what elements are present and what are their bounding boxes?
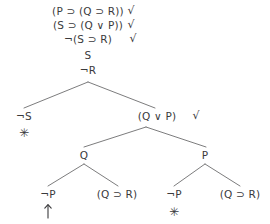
trunk-formula-3: ¬(S ⊃ R) (64, 34, 112, 45)
checkmark-q-or-p: √ (192, 110, 199, 121)
leaf-not-p-right: ¬P (166, 189, 182, 200)
trunk-formula-2: (S ⊃ (Q ∨ P)) (53, 20, 123, 31)
edge-p-right (205, 164, 240, 186)
edge-qorp-right (146, 127, 206, 147)
edge-q-right (84, 164, 118, 186)
checkmark-trunk-1: √ (127, 5, 134, 16)
trunk-formula-1: (P ⊃ (Q ⊃ R)) (52, 6, 124, 17)
edge-p-left (174, 164, 205, 186)
truth-tree-diagram: (P ⊃ (Q ⊃ R)) √ (S ⊃ (Q ∨ P)) √ ¬(S ⊃ R)… (0, 0, 270, 224)
edge-qorp-left (84, 127, 146, 147)
edge-root-right (88, 82, 155, 108)
branch-node-q: Q (80, 150, 88, 161)
leaf-q-imp-r-right: (Q ⊃ R) (220, 189, 261, 200)
leaf-not-p-left: ¬P (40, 189, 56, 200)
trunk-formula-5: ¬R (80, 65, 97, 76)
edge-root-left (24, 82, 88, 108)
checkmark-trunk-2: √ (127, 19, 134, 30)
closure-asterisk-not-s: ✳ (19, 127, 29, 139)
branch-node-q-or-p: (Q ∨ P) (138, 111, 177, 122)
branch-node-p: P (202, 150, 209, 161)
edge-q-left (48, 164, 84, 186)
trunk-formula-4: S (85, 50, 92, 61)
open-branch-arrow-icon (44, 203, 53, 223)
branch-node-not-s: ¬S (16, 111, 32, 122)
leaf-q-imp-r-left: (Q ⊃ R) (97, 189, 138, 200)
closure-asterisk-not-p-right: ✳ (169, 206, 179, 218)
checkmark-trunk-3: √ (129, 33, 136, 44)
